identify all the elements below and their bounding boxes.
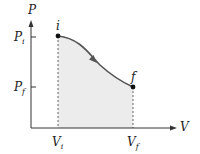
pi-label: Pi	[14, 31, 25, 46]
p-axis-arrow-icon	[29, 20, 34, 27]
point-f-marker	[131, 85, 136, 90]
diagram-graphic	[0, 0, 200, 154]
point-f-label: f	[131, 71, 135, 83]
v-axis-arrow-icon	[170, 126, 177, 131]
v-axis-label: V	[180, 121, 189, 133]
point-i-label: i	[56, 20, 60, 32]
p-axis-label: P	[28, 4, 36, 16]
vf-label: Vf	[127, 136, 139, 151]
pv-diagram: P V i f Pi Pf Vi Vf	[0, 0, 200, 154]
point-i-marker	[56, 34, 61, 39]
vi-label: Vi	[52, 136, 63, 151]
pf-label: Pf	[14, 81, 25, 96]
